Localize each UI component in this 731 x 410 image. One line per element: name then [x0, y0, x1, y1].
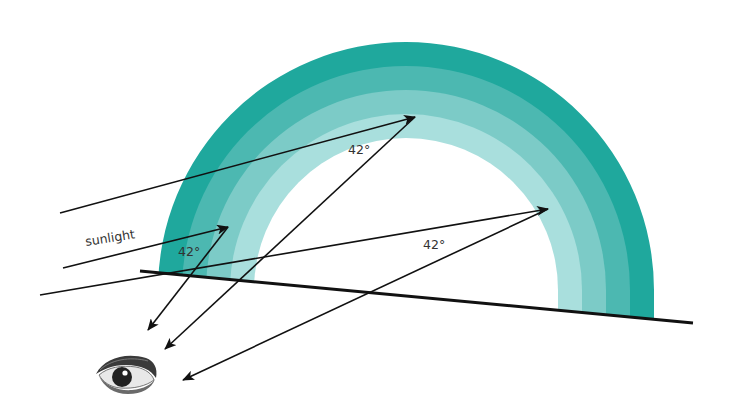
angle-label-left: 42°: [178, 244, 200, 259]
angle-label-top: 42°: [348, 142, 370, 157]
sunlight-label: sunlight: [84, 226, 136, 249]
angle-label-right: 42°: [423, 237, 445, 252]
rainbow-diagram: sunlight 42° 42° 42°: [0, 0, 731, 410]
eye-icon: [96, 356, 157, 394]
